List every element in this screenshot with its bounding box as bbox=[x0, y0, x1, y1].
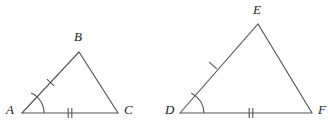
triangle-def bbox=[180, 24, 312, 118]
vertex-label-d: D bbox=[165, 103, 174, 116]
vertex-label-f: F bbox=[318, 103, 326, 116]
triangle-abc bbox=[22, 52, 118, 118]
vertex-label-c: C bbox=[124, 103, 133, 116]
vertex-label-a: A bbox=[6, 103, 14, 116]
vertex-label-e: E bbox=[253, 3, 261, 16]
triangle-abc-outline bbox=[22, 52, 118, 113]
vertex-label-b: B bbox=[74, 30, 82, 43]
single-tick-de-mark-1 bbox=[209, 62, 217, 69]
geometry-figure: ABCDEF bbox=[0, 0, 331, 129]
single-tick-de bbox=[209, 62, 217, 69]
angle-arc-d bbox=[191, 93, 204, 113]
